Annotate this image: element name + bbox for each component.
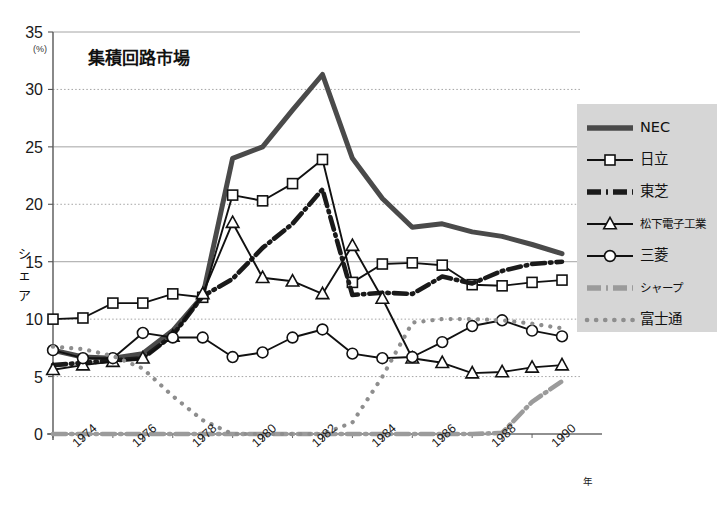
y-tick-label-0: 0 [34, 426, 43, 443]
series-シャープ [53, 381, 562, 434]
x-axis-tick-labels: 197419761978198019821984198619881990 [70, 421, 579, 450]
y-axis-unit-label: (%) [33, 44, 47, 54]
chart-title: 集積回路市場 [87, 48, 190, 68]
axes [47, 32, 602, 441]
series-松下電子工業 [47, 216, 569, 378]
series-富士通 [53, 319, 562, 434]
legend-swatch-circle-icon [605, 251, 616, 262]
marker-square-日立-8 [288, 179, 298, 189]
marker-circle-三菱-7 [257, 347, 268, 358]
y-tick-label-5: 5 [34, 369, 43, 386]
legend: NEC日立東芝松下電子工業三菱シャープ富士通 [577, 104, 717, 332]
marker-circle-三菱-5 [197, 332, 208, 343]
marker-circle-三菱-12 [407, 352, 418, 363]
chart-page: 05101520253035 1974197619781980198219841… [0, 0, 720, 510]
marker-circle-三菱-10 [347, 348, 358, 359]
series-line-三菱 [53, 320, 562, 358]
legend-label-松下電子工業: 松下電子工業 [640, 217, 707, 231]
marker-square-日立-15 [497, 281, 507, 291]
series-line-富士通 [53, 319, 562, 434]
marker-circle-三菱-4 [167, 332, 178, 343]
data-series [47, 75, 569, 435]
series-NEC [53, 75, 562, 359]
legend-swatch-square-icon [605, 155, 615, 165]
series-line-シャープ [53, 381, 562, 434]
marker-square-日立-16 [527, 277, 537, 287]
marker-square-日立-11 [377, 259, 387, 269]
marker-circle-三菱-9 [317, 324, 328, 335]
marker-square-日立-3 [138, 298, 148, 308]
y-axis-title: シェア [18, 246, 31, 303]
marker-square-日立-6 [228, 190, 238, 200]
y-tick-label-10: 10 [25, 311, 43, 328]
series-東芝 [53, 189, 562, 365]
marker-circle-三菱-11 [377, 353, 388, 364]
y-tick-label-25: 25 [25, 139, 43, 156]
series-line-NEC [53, 75, 562, 359]
legend-label-富士通: 富士通 [640, 310, 683, 327]
legend-label-三菱: 三菱 [640, 247, 668, 263]
marker-triangle-松下電子工業-7 [256, 271, 269, 282]
y-tick-label-35: 35 [25, 24, 43, 41]
marker-square-日立-2 [108, 298, 118, 308]
marker-circle-三菱-8 [287, 332, 298, 343]
marker-circle-三菱-6 [227, 352, 238, 363]
marker-circle-三菱-1 [78, 353, 89, 364]
marker-square-日立-1 [78, 313, 88, 323]
marker-square-日立-17 [557, 275, 567, 285]
y-axis-tick-labels: 05101520253035 [25, 24, 43, 443]
x-tick-label-1988: 1988 [489, 421, 519, 450]
marker-circle-三菱-14 [467, 321, 478, 332]
marker-square-日立-9 [317, 154, 327, 164]
series-line-日立 [53, 160, 562, 320]
marker-square-日立-4 [168, 289, 178, 299]
series-line-松下電子工業 [53, 223, 562, 373]
marker-circle-三菱-17 [557, 331, 568, 342]
y-axis-title-char-2: ア [18, 288, 31, 303]
legend-label-日立: 日立 [640, 151, 668, 167]
y-tick-label-20: 20 [25, 196, 43, 213]
marker-circle-三菱-3 [137, 328, 148, 339]
marker-circle-三菱-13 [437, 337, 448, 348]
marker-square-日立-13 [437, 260, 447, 270]
marker-square-日立-12 [407, 258, 417, 268]
x-tick-label-1978: 1978 [189, 421, 219, 450]
x-tick-label-1990: 1990 [549, 421, 579, 450]
marker-triangle-松下電子工業-6 [226, 216, 239, 227]
x-axis-unit-label: 年 [583, 476, 593, 487]
legend-label-NEC: NEC [640, 119, 670, 135]
marker-square-日立-0 [48, 314, 58, 324]
series-line-東芝 [53, 189, 562, 365]
integrated-circuit-market-chart: 05101520253035 1974197619781980198219841… [0, 0, 720, 510]
y-tick-label-30: 30 [25, 81, 43, 98]
y-axis-title-char-0: シ [18, 246, 31, 261]
marker-square-日立-7 [258, 196, 268, 206]
marker-triangle-松下電子工業-17 [556, 358, 569, 369]
legend-label-東芝: 東芝 [640, 183, 668, 199]
marker-circle-三菱-16 [527, 325, 538, 336]
y-axis-title-char-1: ェ [18, 267, 31, 282]
series-日立 [48, 154, 567, 324]
legend-label-シャープ: シャープ [640, 281, 684, 295]
marker-triangle-松下電子工業-10 [346, 239, 359, 250]
